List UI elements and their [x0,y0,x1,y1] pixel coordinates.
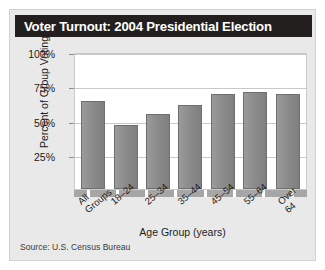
x-axis-tick-mark [204,190,207,197]
x-axis-category-labels: All Groups18–2425–3435–4445–5455–64Over … [74,197,307,227]
y-axis-tick-mark [69,123,74,124]
y-axis-tick-label: 50% [0,117,55,129]
y-axis-tick-mark [69,88,74,89]
bars-layer [75,54,306,189]
y-axis-tick-label: 100% [0,48,55,60]
chart-panel: Voter Turnout: 2004 Presidential Electio… [9,9,316,261]
plot-area [74,53,307,190]
page-title: Voter Turnout: 2004 Presidential Electio… [24,19,272,34]
x-axis-title: Age Group (years) [58,226,307,238]
y-axis-tick-mark [69,54,74,55]
source-note: Source: U.S. Census Bureau [20,242,130,252]
y-axis-tick-label: 75% [0,82,55,94]
y-axis-tick-label: 25% [0,151,55,163]
y-axis-tick-mark [69,157,74,158]
chart-title-bar: Voter Turnout: 2004 Presidential Electio… [15,15,312,37]
